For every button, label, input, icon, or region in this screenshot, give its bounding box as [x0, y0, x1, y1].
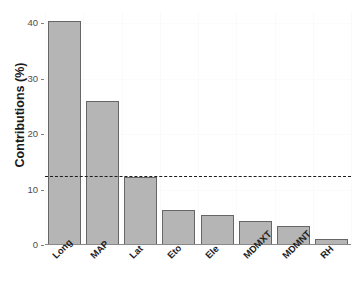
y-axis-tick-label: 10 [0, 184, 38, 195]
plot-panel [45, 12, 351, 245]
bar-map [86, 101, 119, 245]
bar-ele [201, 215, 234, 246]
gridline-vertical [236, 12, 237, 245]
y-axis-tick-label: 30 [0, 73, 38, 84]
gridline-vertical [83, 12, 84, 245]
y-axis-tick-mark [41, 190, 44, 191]
bar-eto [162, 210, 195, 245]
x-axis-line [45, 244, 351, 245]
bar-chart: Contributions (%) 010203040 LongMAPLatEt… [0, 0, 355, 290]
bar-lat [124, 177, 157, 245]
gridline-vertical [275, 12, 276, 245]
y-axis-tick-mark [41, 23, 44, 24]
y-axis-tick-mark [41, 134, 44, 135]
y-axis-tick-mark [41, 245, 44, 246]
bar-long [48, 21, 81, 245]
y-axis-tick-mark [41, 79, 44, 80]
gridline-vertical [351, 12, 352, 245]
y-axis-title: Contributions (%) [13, 35, 27, 195]
gridline-vertical [198, 12, 199, 245]
gridline-vertical [45, 12, 46, 245]
gridline-horizontal [45, 245, 351, 246]
y-axis-tick-label: 0 [0, 239, 38, 250]
y-axis-tick-label: 20 [0, 128, 38, 139]
reference-line-icon [45, 176, 351, 177]
gridline-vertical [160, 12, 161, 245]
y-axis-tick-label: 40 [0, 17, 38, 28]
gridline-vertical [313, 12, 314, 245]
gridline-vertical [122, 12, 123, 245]
